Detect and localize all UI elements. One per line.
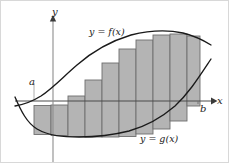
upper-bound-label: b: [200, 104, 206, 114]
rectangle-bar: [34, 106, 51, 135]
rectangle-bar: [102, 63, 119, 137]
approximating-rectangles: [34, 34, 200, 137]
x-axis-label: x: [217, 96, 223, 106]
rectangle-bar: [119, 49, 136, 137]
y-axis-label: y: [52, 7, 58, 17]
curve-f-label: y = f(x): [89, 27, 125, 37]
figure-container: y x a b y = f(x) y = g(x): [0, 0, 229, 163]
rectangle-bar: [136, 40, 153, 134]
rectangle-bar: [68, 96, 85, 137]
rectangle-bar: [85, 80, 102, 137]
lower-bound-label: a: [29, 77, 35, 87]
rectangle-bar: [153, 35, 170, 129]
rectangle-bar: [187, 36, 200, 106]
curve-g-label: y = g(x): [140, 134, 178, 144]
